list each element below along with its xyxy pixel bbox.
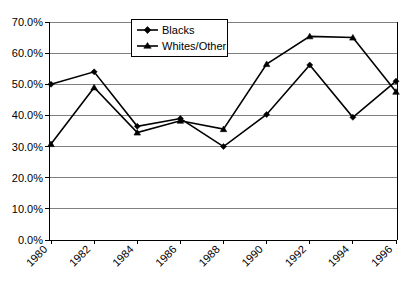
x-tick-label: 1980 [24,243,50,269]
y-tick-label: 10.0% [12,203,43,215]
y-tick-label: 50.0% [12,78,43,90]
legend-label-blacks: Blacks [162,24,195,36]
y-tick-marks [45,22,49,240]
x-tick-label: 1984 [110,243,136,269]
chart-legend: Blacks Whites/Other [131,19,227,56]
y-tick-label: 60.0% [12,47,43,59]
line-chart: 70.0% 60.0% 50.0% 40.0% 30.0% 20.0% 10.0… [0,0,419,283]
x-tick-marks [51,240,396,244]
y-tick-label: 30.0% [12,141,43,153]
legend-label-whites-other: Whites/Other [162,40,227,52]
y-axis-labels: 70.0% 60.0% 50.0% 40.0% 30.0% 20.0% 10.0… [12,16,43,246]
x-axis-labels: 1980 1982 1984 1986 1988 1990 1992 1994 … [24,243,395,269]
x-tick-label: 1982 [67,243,93,269]
x-tick-label: 1996 [369,243,395,269]
y-tick-label: 70.0% [12,16,43,28]
y-tick-label: 40.0% [12,109,43,121]
x-tick-label: 1986 [153,243,179,269]
y-tick-label: 20.0% [12,172,43,184]
chart-container: 70.0% 60.0% 50.0% 40.0% 30.0% 20.0% 10.0… [0,0,419,283]
x-tick-label: 1994 [326,243,352,269]
x-tick-label: 1990 [239,243,265,269]
x-tick-label: 1992 [282,243,308,269]
x-tick-label: 1988 [196,243,222,269]
